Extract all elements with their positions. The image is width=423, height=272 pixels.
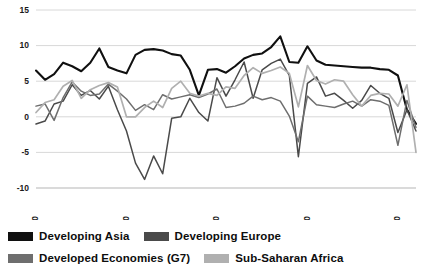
x-axis-tick-label: 1980 — [30, 216, 40, 220]
legend-swatch-developed-economies-g7 — [8, 254, 33, 263]
series-line-developing-asia — [36, 36, 416, 124]
legend-swatch-sub-saharan-africa — [204, 254, 229, 263]
y-axis-tick-labels: 151050-5-10 — [17, 5, 30, 193]
y-axis-tick-label: -10 — [17, 183, 30, 193]
legend-entry-developing-asia[interactable]: Developing Asia — [8, 230, 130, 242]
series-lines-group — [36, 36, 416, 179]
legend-label-developed-economies-g7: Developed Economies (G7) — [39, 252, 190, 264]
legend-entry-sub-saharan-africa[interactable]: Sub-Saharan Africa — [204, 252, 343, 264]
gridlines-group — [36, 10, 416, 188]
y-axis-tick-label: 10 — [20, 40, 30, 50]
y-axis-tick-label: 15 — [20, 5, 30, 15]
legend-entry-developed-economies-g7[interactable]: Developed Economies (G7) — [8, 252, 190, 264]
legend-row-2: Developed Economies (G7) Sub-Saharan Afr… — [8, 248, 423, 268]
legend-label-developing-europe: Developing Europe — [175, 230, 282, 242]
series-line-developed-economies-g7 — [36, 82, 416, 145]
legend-swatch-developing-europe — [144, 232, 169, 241]
legend-label-sub-saharan-africa: Sub-Saharan Africa — [235, 252, 343, 264]
x-axis-tick-label: 1990 — [121, 216, 131, 220]
x-axis-tick-labels: 19801990200020102020 — [30, 216, 402, 220]
x-axis-tick-label: 2000 — [211, 216, 221, 220]
y-axis-tick-label: 0 — [24, 112, 29, 122]
series-line-sub-saharan-africa — [36, 66, 416, 153]
plot-area-container: 151050-5-10 19801990200020102020 — [0, 0, 423, 220]
legend-swatch-developing-asia — [8, 232, 33, 241]
legend-entry-developing-europe[interactable]: Developing Europe — [144, 230, 282, 242]
y-axis-tick-label: 5 — [24, 76, 29, 86]
line-chart-figure: 151050-5-10 19801990200020102020 Develop… — [0, 0, 423, 272]
chart-svg: 151050-5-10 19801990200020102020 — [0, 0, 423, 220]
x-axis-tick-label: 2020 — [392, 216, 402, 220]
chart-legend: Developing Asia Developing Europe Develo… — [0, 222, 423, 272]
series-line-developing-europe — [36, 59, 416, 179]
legend-label-developing-asia: Developing Asia — [39, 230, 130, 242]
x-axis-tick-label: 2010 — [302, 216, 312, 220]
y-axis-tick-label: -5 — [21, 147, 29, 157]
legend-row-1: Developing Asia Developing Europe — [8, 226, 423, 246]
